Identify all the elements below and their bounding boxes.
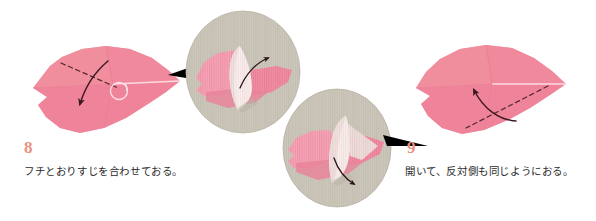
detail-circle-lower [283,89,391,207]
origami-leaf-step-8 [33,46,180,133]
diagram-stage: 8 フチとおりすじを合わせておる。 9 開いて、反対側も同じようにおる。 [0,0,596,221]
leaf-panel-upper-left [33,46,112,88]
origami-diagram-canvas [0,0,596,221]
leaf-panel-lower [33,81,180,133]
step-number-8: 8 [24,139,33,156]
step-caption-8: フチとおりすじを合わせておる。 [24,166,183,178]
leaf-panel-upper-right-right [486,45,566,84]
leaf-panel-upper-left-right [416,45,492,88]
origami-leaf-step-9 [416,45,566,134]
leaf-panel-upper-right [106,46,180,84]
step-caption-9: 開いて、反対側も同じようにおる。 [405,166,574,178]
detail-circle-upper [186,11,300,133]
step-number-9: 9 [407,139,416,156]
